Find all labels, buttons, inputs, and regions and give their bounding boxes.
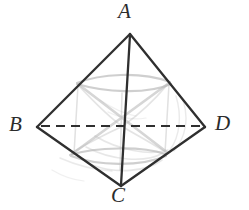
vertex-label-d: D xyxy=(215,113,230,134)
vertex-label-c: C xyxy=(111,185,125,206)
edge-A-C xyxy=(121,35,130,185)
vertex-label-a: A xyxy=(118,1,131,22)
figure-canvas xyxy=(0,0,249,210)
vertex-label-b: B xyxy=(9,114,22,135)
geometry-figure: A B C D xyxy=(0,0,249,210)
edge-C-D xyxy=(121,127,205,186)
